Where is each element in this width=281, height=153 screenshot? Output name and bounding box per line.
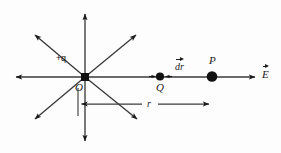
point-p-label: P bbox=[209, 55, 216, 66]
diagram-canvas bbox=[0, 0, 281, 153]
distance-dimension bbox=[78, 88, 209, 116]
distance-label: r bbox=[147, 99, 151, 109]
origin-label: O bbox=[75, 82, 83, 93]
displacement-vector-label: dr bbox=[175, 57, 184, 72]
charge-marker bbox=[81, 73, 89, 81]
point-q-label: Q bbox=[156, 82, 164, 93]
field-line-lower-right bbox=[85, 77, 137, 119]
charge-label: +q bbox=[56, 54, 66, 63]
displacement-vector-text: dr bbox=[175, 62, 184, 72]
field-vector-text: E bbox=[262, 69, 269, 80]
displacement-vector-arrow-icon bbox=[175, 57, 184, 62]
field-vector-label: E bbox=[262, 64, 269, 80]
field-line-upper-right bbox=[85, 35, 136, 77]
field-vector-arrow-icon bbox=[262, 64, 269, 69]
electric-field-diagram: +q O Q P dr E r bbox=[0, 0, 281, 153]
point-p-marker bbox=[207, 71, 218, 82]
point-q-marker bbox=[156, 72, 164, 80]
